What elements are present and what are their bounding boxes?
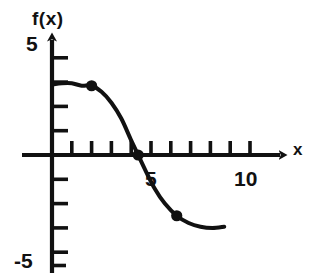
y-axis-top-tick-label: 5 (26, 32, 38, 55)
y-axis-bottom-tick-label: -5 (14, 249, 33, 272)
x-axis-tick-label-10: 10 (234, 167, 257, 190)
y-axis-title: f(x) (32, 8, 64, 29)
data-point-marker (133, 149, 144, 160)
data-point-marker (171, 210, 182, 221)
function-graph-figure: f(x) x 5 -5 5 10 (0, 0, 322, 279)
data-point-marker (86, 80, 97, 91)
x-axis-tick-label-5: 5 (145, 167, 157, 190)
plot-canvas: f(x) x 5 -5 5 10 (0, 0, 322, 279)
x-axis-group (22, 141, 280, 155)
x-axis-title: x (293, 140, 303, 159)
